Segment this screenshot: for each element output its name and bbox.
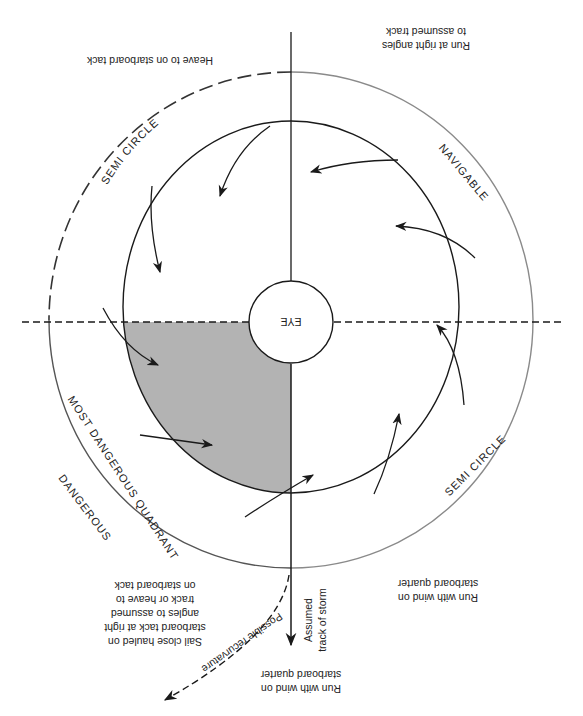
semicircle-top-label: SEMI CIRCLE [99,116,161,186]
svg-text:Run at right angles: Run at right angles [382,40,470,52]
svg-text:Assumed: Assumed [302,598,314,642]
svg-text:starboard quarter: starboard quarter [260,669,341,681]
svg-text:Heave to on starboard tack: Heave to on starboard tack [86,55,213,67]
wind-arrow [396,226,475,258]
semicircle-bottom-label: SEMI CIRCLE [442,432,508,498]
instruction-top-right: Run at right angles to assumed track [382,26,470,52]
svg-text:Sail close hauled on: Sail close hauled on [108,636,202,648]
assumed-track-label: Assumed track of storm [302,588,328,652]
instruction-bottom-left: Sail close hauled on starboard tack at r… [104,580,206,648]
svg-text:on starboard tack: on starboard tack [114,580,196,592]
instruction-bottom-center: Run with wind on starboard quarter [260,669,341,695]
storm-quadrant-diagram: EYE SEMI CIRCLE NAVIGABLE SEMI CIRCLE DA… [0,0,583,716]
svg-text:Possible recurvature: Possible recurvature [200,611,285,676]
svg-text:angles to assumed: angles to assumed [111,608,199,620]
svg-text:to assumed track: to assumed track [385,26,466,38]
wind-arrow [311,160,398,172]
svg-text:starboard quarter: starboard quarter [397,578,478,590]
dangerous-label: DANGEROUS [56,472,114,543]
svg-text:Run with wind on: Run with wind on [398,592,478,604]
svg-text:starboard tack at right: starboard tack at right [104,622,206,634]
svg-text:Run with wind on: Run with wind on [261,683,341,695]
wind-arrow [220,126,270,196]
instruction-top-left: Heave to on starboard tack [86,55,213,67]
svg-text:track of storm: track of storm [316,588,328,652]
wind-arrow [151,186,160,272]
eye-label: EYE [280,316,301,328]
navigable-label: NAVIGABLE [437,142,492,204]
recurvature-label: Possible recurvature [200,611,285,676]
svg-text:track or heave to: track or heave to [116,594,194,606]
instruction-bottom-right: Run with wind on starboard quarter [397,578,478,604]
wind-arrow [374,414,399,494]
